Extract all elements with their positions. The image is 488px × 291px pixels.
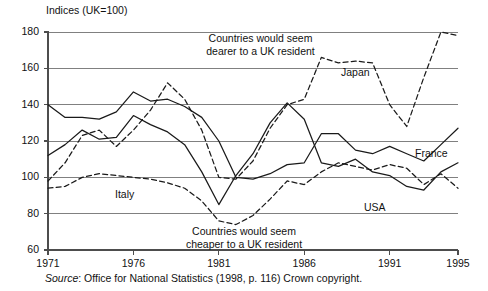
series-line-usa: [48, 103, 458, 205]
source-text: : Office for National Statistics (1998, …: [78, 272, 362, 284]
series-label-japan: Japan: [341, 66, 370, 78]
source-prefix: Source: [45, 272, 78, 284]
y-tick-label: 160: [15, 61, 39, 73]
axis-ticks: [44, 32, 458, 255]
series-label-italy: Italy: [115, 188, 134, 200]
x-tick-label: 1971: [28, 257, 68, 269]
y-tick-label: 140: [15, 98, 39, 110]
y-tick-label: 80: [15, 207, 39, 219]
x-tick-label: 1981: [199, 257, 239, 269]
annotation-cheaper-line1: Countries would seem: [159, 225, 329, 238]
series-label-france: France: [415, 147, 448, 159]
annotation-cheaper: Countries would seem cheaper to a UK res…: [159, 225, 329, 250]
x-tick-label: 1995: [438, 257, 478, 269]
annotation-dearer-line2: dearer to a UK resident: [178, 45, 343, 58]
chart-figure: Indices (UK=100) 1801601401201008060 197…: [0, 0, 488, 291]
series-line-italy: [48, 163, 458, 225]
y-tick-label: 180: [15, 25, 39, 37]
annotation-dearer: Countries would seem dearer to a UK resi…: [178, 32, 343, 57]
series-lines: [48, 32, 458, 225]
x-tick-label: 1976: [113, 257, 153, 269]
gridlines: [48, 32, 458, 250]
source-caption: Source: Office for National Statistics (…: [45, 272, 362, 284]
series-label-usa: USA: [364, 201, 386, 213]
annotation-cheaper-line2: cheaper to a UK resident: [159, 238, 329, 251]
x-tick-label: 1991: [370, 257, 410, 269]
y-tick-label: 120: [15, 134, 39, 146]
y-tick-label: 100: [15, 170, 39, 182]
x-tick-label: 1986: [284, 257, 324, 269]
y-tick-label: 60: [15, 243, 39, 255]
annotation-dearer-line1: Countries would seem: [178, 32, 343, 45]
